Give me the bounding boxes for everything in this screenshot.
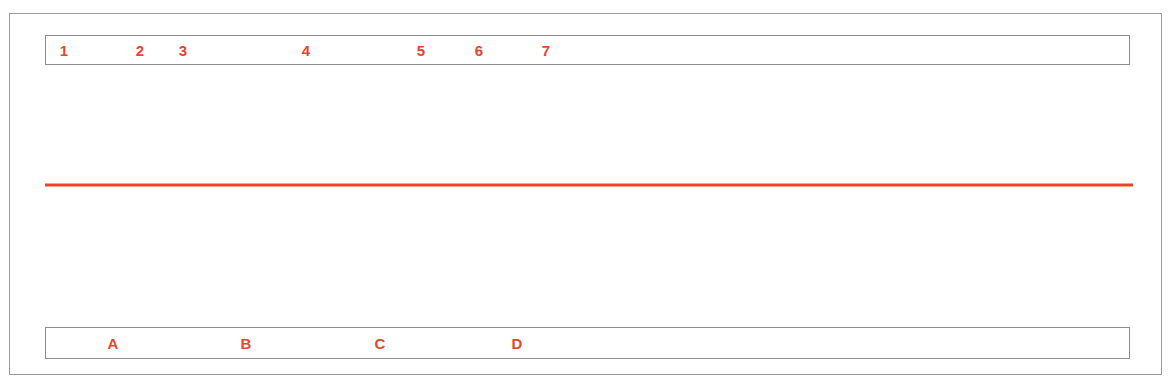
bottom-marker-strip: ABCD bbox=[45, 327, 1130, 359]
interval-marker-2: 2 bbox=[136, 43, 144, 58]
interval-marker-5: 5 bbox=[417, 43, 425, 58]
interval-marker-a: A bbox=[108, 336, 119, 351]
figure-canvas: 1234567 ABCD bbox=[0, 0, 1174, 391]
interval-marker-7: 7 bbox=[542, 43, 550, 58]
interval-marker-d: D bbox=[512, 336, 523, 351]
interval-marker-b: B bbox=[241, 336, 252, 351]
interval-marker-6: 6 bbox=[475, 43, 483, 58]
interval-marker-c: C bbox=[375, 336, 386, 351]
interval-marker-4: 4 bbox=[302, 43, 310, 58]
interval-marker-1: 1 bbox=[60, 43, 68, 58]
interval-marker-3: 3 bbox=[179, 43, 187, 58]
figure-outer-frame bbox=[9, 13, 1162, 375]
top-marker-strip: 1234567 bbox=[45, 35, 1130, 65]
